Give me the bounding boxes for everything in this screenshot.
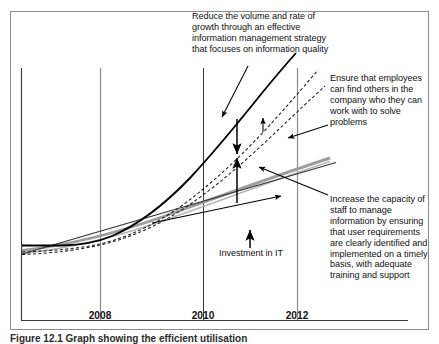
annotation-increase-capacity: Increase the capacity of staff to manage… [330, 194, 428, 281]
annotation-reduce-volume: Reduce the volume and rate of growth thr… [192, 11, 335, 55]
x-axis-tick-2010: 2010 [181, 310, 225, 321]
x-axis-tick-2012: 2012 [275, 310, 319, 321]
figure-frame [10, 11, 429, 330]
x-axis-tick-2008: 2008 [78, 310, 122, 321]
figure-caption: Figure 12.1 Graph showing the efficient … [10, 333, 439, 344]
annotation-investment-in-it: Investment in IT [203, 248, 299, 259]
annotation-ensure-employees: Ensure that employees can find others in… [330, 73, 426, 128]
